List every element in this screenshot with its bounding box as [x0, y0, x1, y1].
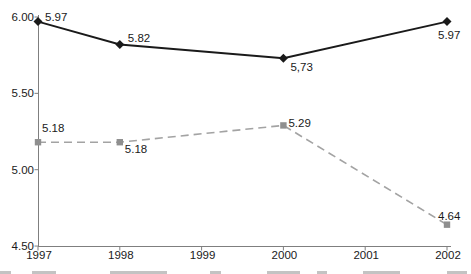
lower-dashed-line-path: [38, 125, 447, 224]
point-label: 5,73: [290, 61, 312, 73]
point-label: 5.29: [288, 117, 310, 129]
x-tick-label: 2002: [435, 249, 461, 261]
cutoff-caption: [0, 270, 471, 274]
diamond-marker: [279, 54, 288, 63]
square-marker: [35, 139, 41, 145]
point-label: 5.18: [125, 143, 147, 155]
x-tick-label: 1999: [190, 249, 216, 261]
x-tick-label: 1997: [26, 249, 52, 261]
square-marker: [117, 139, 123, 145]
point-label: 5.97: [45, 11, 67, 23]
chart-canvas: 6.005.505.004.50199719981999200020012002…: [0, 0, 471, 274]
diamond-marker: [115, 40, 124, 49]
point-label: 5.82: [128, 32, 150, 44]
x-tick-label: 1998: [108, 249, 134, 261]
square-marker: [444, 221, 450, 227]
square-marker: [280, 122, 286, 128]
y-tick-label: 6.00: [12, 11, 34, 23]
upper-solid-line-path: [38, 22, 447, 59]
diamond-marker: [34, 17, 43, 26]
diamond-marker: [443, 17, 452, 26]
point-label: 5.97: [438, 29, 460, 41]
y-tick-label: 5.50: [12, 87, 34, 99]
x-tick-label: 2001: [353, 249, 379, 261]
line-chart: 6.005.505.004.50199719981999200020012002…: [0, 0, 471, 274]
point-label: 5.18: [42, 122, 64, 134]
point-label: 4.64: [438, 210, 461, 222]
y-tick-label: 5.00: [12, 164, 34, 176]
x-tick-label: 2000: [272, 249, 298, 261]
